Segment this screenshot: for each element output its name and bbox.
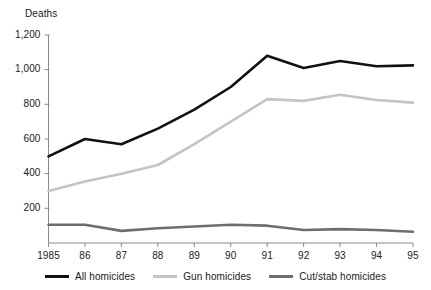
series-line <box>49 56 414 157</box>
data-series-lines <box>49 56 414 232</box>
plot-area <box>0 0 431 290</box>
axis-lines <box>49 35 414 243</box>
legend-item: Gun homicides <box>153 271 251 282</box>
legend-label: All homicides <box>75 271 135 282</box>
chart-legend: All homicidesGun homicidesCut/stab homic… <box>0 266 431 286</box>
legend-swatch-icon <box>45 275 69 278</box>
legend-label: Cut/stab homicides <box>299 271 386 282</box>
legend-swatch-icon <box>153 275 177 278</box>
legend-swatch-icon <box>269 275 293 278</box>
legend-item: Cut/stab homicides <box>269 271 386 282</box>
legend-item: All homicides <box>45 271 135 282</box>
series-line <box>49 225 414 232</box>
legend-label: Gun homicides <box>183 271 251 282</box>
chart-container: Deaths 2004006008001,0001,200 1985868788… <box>0 0 431 290</box>
